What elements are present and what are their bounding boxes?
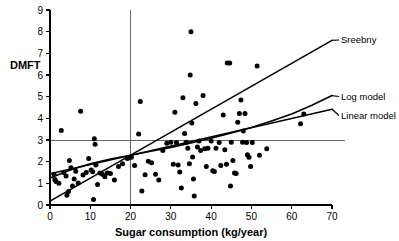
data-point [56, 181, 61, 186]
data-point [136, 131, 141, 136]
x-tick-label-50: 50 [246, 211, 258, 222]
data-point [248, 164, 253, 169]
scatter-chart: 0123456789 010203040506070 DMFT Sugar co… [0, 0, 399, 241]
data-point [238, 97, 243, 102]
data-point [247, 155, 252, 160]
data-point [209, 139, 214, 144]
data-point [153, 172, 158, 177]
data-point [189, 121, 194, 126]
x-axis-title: Sugar consumption (kg/year) [115, 226, 268, 238]
data-point [68, 165, 73, 170]
data-point [139, 188, 144, 193]
x-tick-label-70: 70 [326, 211, 338, 222]
data-point [179, 186, 184, 191]
data-point [244, 140, 249, 145]
data-point [172, 110, 177, 115]
x-tick-label-60: 60 [286, 211, 298, 222]
data-point [257, 153, 262, 158]
y-tick-label-8: 8 [37, 26, 43, 37]
data-point [177, 170, 182, 175]
data-point [84, 170, 89, 175]
data-point [138, 99, 143, 104]
data-point [201, 93, 206, 98]
data-point [72, 177, 77, 182]
data-point [197, 139, 202, 144]
data-point [230, 158, 235, 163]
data-point [108, 171, 113, 176]
data-point [298, 121, 303, 126]
data-point [237, 111, 242, 116]
series-label-linear-model: Linear model [341, 110, 396, 121]
data-point [187, 161, 192, 166]
data-point [184, 140, 189, 145]
y-tick-label-0: 0 [37, 200, 43, 211]
data-point [64, 173, 69, 178]
data-point [78, 109, 83, 114]
data-point [264, 146, 269, 151]
data-point [235, 120, 240, 125]
data-point [156, 178, 161, 183]
y-tick-label-6: 6 [37, 70, 43, 81]
y-tick-label-7: 7 [37, 48, 43, 59]
y-tick-label-9: 9 [37, 5, 43, 16]
series-label-sreebny: Sreebny [341, 34, 377, 45]
y-tick-label-5: 5 [37, 91, 43, 102]
data-point [188, 73, 193, 78]
data-point [224, 162, 229, 167]
data-point [190, 154, 195, 159]
data-point [228, 183, 233, 188]
x-tick-label-20: 20 [125, 211, 137, 222]
data-point [204, 164, 209, 169]
data-point [212, 169, 217, 174]
data-point [86, 156, 91, 161]
data-point [205, 146, 210, 151]
y-tick-label-3: 3 [37, 135, 43, 146]
data-point [185, 146, 190, 151]
data-point [90, 169, 95, 174]
data-point [93, 142, 98, 147]
data-point [52, 172, 57, 177]
data-point [213, 146, 218, 151]
data-point [180, 95, 185, 100]
y-axis-title: DMFT [10, 59, 41, 71]
data-point [91, 197, 96, 202]
data-point [129, 155, 134, 160]
data-point [250, 140, 255, 145]
data-point [192, 193, 197, 198]
data-point [229, 140, 234, 145]
data-point [70, 183, 75, 188]
data-point [132, 163, 137, 168]
data-point [301, 112, 306, 117]
data-point [227, 61, 232, 66]
data-point [66, 189, 71, 194]
y-tick-label-4: 4 [37, 113, 43, 124]
data-point [73, 169, 78, 174]
data-point [67, 158, 72, 163]
data-point [76, 180, 81, 185]
data-point [221, 113, 226, 118]
data-point [234, 171, 239, 176]
data-point [171, 162, 176, 167]
data-point [193, 101, 198, 106]
data-point [217, 140, 222, 145]
data-point [168, 140, 173, 145]
data-point [218, 163, 223, 168]
data-point [143, 172, 148, 177]
data-point [189, 29, 194, 34]
data-point [176, 162, 181, 167]
x-tick-label-40: 40 [206, 211, 218, 222]
chart-canvas: 0123456789 010203040506070 DMFT Sugar co… [0, 0, 399, 241]
data-point [222, 147, 227, 152]
data-point [255, 63, 260, 68]
data-point [191, 177, 196, 182]
y-tick-label-2: 2 [37, 156, 43, 167]
data-point [93, 162, 98, 167]
y-tick-label-1: 1 [37, 178, 43, 189]
x-tick-label-30: 30 [165, 211, 177, 222]
data-point [112, 178, 117, 183]
x-tick-label-10: 10 [85, 211, 97, 222]
data-point [92, 136, 97, 141]
data-point [120, 161, 125, 166]
series-label-log-model: Log model [341, 91, 385, 102]
x-tick-label-0: 0 [47, 211, 53, 222]
